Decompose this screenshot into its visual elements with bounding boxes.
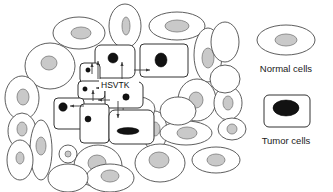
tumor-nucleus [117,128,139,135]
tumor-nucleus [59,103,67,111]
normal-cell [30,120,52,180]
legend-tumor-nucleus-icon [273,100,299,116]
cell-nucleus [65,151,71,157]
legend: Normal cells Tumor cells [257,25,315,146]
tumor-nucleus [85,116,91,122]
tumor-nucleus [83,87,87,91]
tumor-membrane [109,110,154,144]
tumor-nucleus [123,94,129,100]
normal-cell [59,145,77,163]
normal-cell [53,17,105,49]
tumor-cell [109,110,154,144]
cell-nucleus [177,127,197,139]
legend-normal-nucleus-icon [275,34,297,46]
cell-nucleus [101,170,119,182]
legend-normal-label: Normal cells [260,63,313,74]
cell-nucleus [122,17,130,35]
hsvtk-label: HSVTK [101,80,130,90]
normal-cell [109,4,141,48]
cell-diagram: HSVTK Normal cells Tumor cells [0,0,333,192]
tumor-membrane [80,104,109,143]
figure-container: HSVTK Normal cells Tumor cells [0,0,333,192]
cell-nucleus [207,154,225,166]
hsvtk-label-group: HSVTK [99,79,139,91]
cell-membrane [210,65,240,93]
normal-cell [192,147,240,173]
cell-nucleus [17,122,27,136]
legend-tumor-label: Tumor cells [262,135,311,146]
normal-cell [86,164,134,192]
normal-cell [218,118,246,140]
cell-nucleus [41,56,57,70]
legend-item-tumor: Tumor cells [262,95,311,146]
legend-item-normal: Normal cells [257,25,315,74]
cell-membrane [48,164,88,192]
normal-cell [135,144,185,182]
normal-cell [149,12,205,40]
normal-cell [7,140,33,180]
normal-cell [211,22,239,62]
tumor-nucleus [108,53,118,63]
cell-nucleus [17,89,29,105]
normal-cell [48,164,88,192]
tumor-cell [140,44,188,77]
normal-cell [210,65,240,93]
tumor-membrane [80,63,100,83]
tumor-cell [95,45,135,78]
cell-nucleus [223,96,233,110]
tumor-cell [80,63,100,83]
tumor-cell [80,104,109,143]
cell-membrane [160,97,196,125]
normal-cell [160,97,196,125]
tumor-nucleus [155,53,167,67]
cell-nucleus [71,27,91,39]
cell-nucleus [36,137,46,155]
cell-nucleus [149,152,169,168]
cell-nucleus [16,152,24,164]
cell-membrane [211,22,239,62]
cell-nucleus [165,20,189,32]
normal-cell [160,121,212,145]
tumor-nucleus [86,68,90,72]
cell-nucleus [227,124,237,134]
